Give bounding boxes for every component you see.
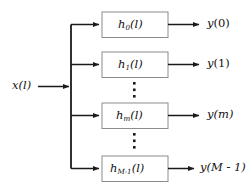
filter-label-3: hM-1(l) bbox=[110, 163, 144, 175]
output-label-0: y(0) bbox=[207, 18, 230, 30]
filter-label-0: h0(l) bbox=[118, 19, 143, 31]
ellipsis-lower-dots bbox=[133, 133, 136, 149]
filter-arg-2: (l) bbox=[130, 108, 143, 122]
ellipsis-upper-dots bbox=[133, 82, 136, 98]
filter-label-2: hm(l) bbox=[116, 110, 143, 122]
output-label-3: y(M - 1) bbox=[200, 162, 246, 174]
output-arg-2: (m) bbox=[214, 107, 234, 121]
filter-sub-3: M-1 bbox=[117, 167, 131, 176]
output-label-1: y(1) bbox=[207, 58, 230, 70]
filter-bank-diagram: x(l) h0(l) h1(l) hm(l) hM-1(l) y(0) y(1)… bbox=[0, 0, 249, 187]
filter-arg-3: (l) bbox=[132, 161, 145, 175]
filter-arg-0: (l) bbox=[130, 17, 143, 31]
output-label-2: y(m) bbox=[207, 109, 233, 121]
filter-label-1: h1(l) bbox=[118, 59, 143, 71]
output-arg-0: (0) bbox=[214, 16, 230, 30]
filter-arg-1: (l) bbox=[130, 57, 143, 71]
input-label: x(l) bbox=[12, 80, 31, 92]
output-arg-3: (M - 1) bbox=[207, 160, 246, 174]
input-label-arg: (l) bbox=[19, 78, 32, 92]
output-arg-1: (1) bbox=[214, 56, 230, 70]
